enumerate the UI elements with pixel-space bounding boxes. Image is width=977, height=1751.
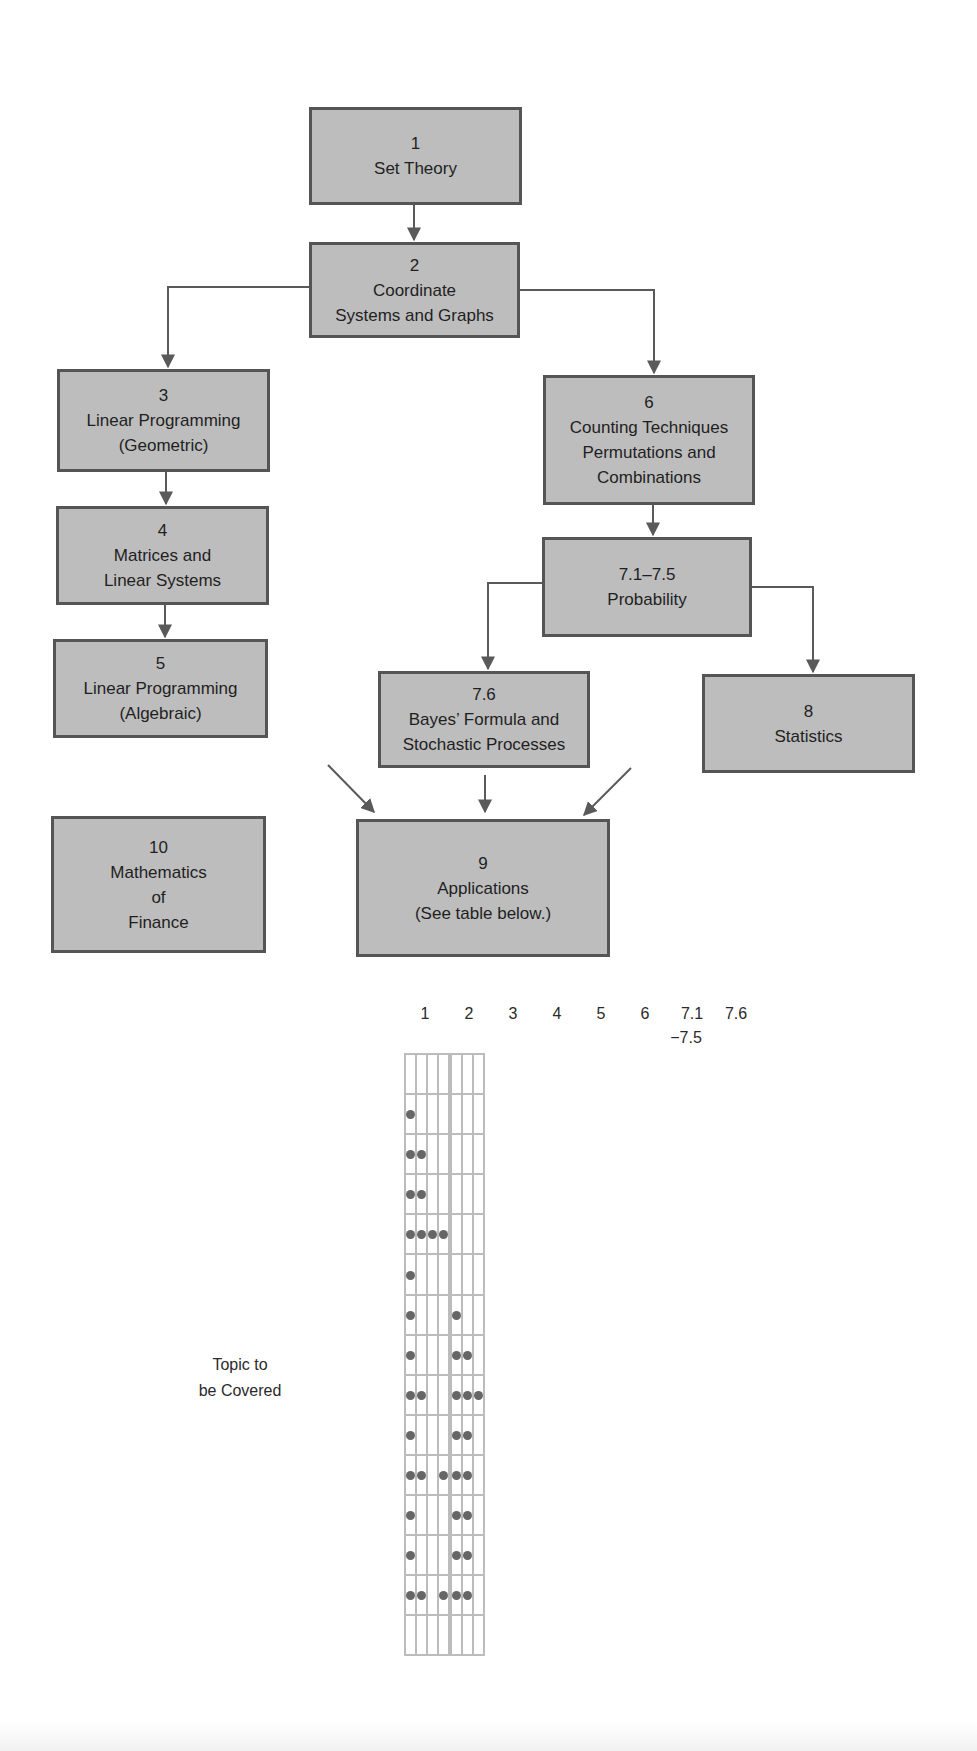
table-cell [416,1094,427,1134]
prerequisite-dot-icon [406,1591,415,1600]
table-cell [427,1054,438,1094]
table-cell [451,1535,462,1575]
table-cell [427,1375,438,1415]
box-title: Bayes’ Formula and [409,707,560,732]
table-cell [438,1295,449,1335]
box-title: Finance [128,910,188,935]
table-cell [462,1495,473,1535]
table-cell [416,1575,427,1615]
table-cell [462,1134,473,1174]
prerequisite-dot-icon [463,1351,472,1360]
box-number: 7.6 [472,682,496,707]
prerequisite-dot-icon [417,1591,426,1600]
table-cell [427,1134,438,1174]
box-title: Coordinate [373,278,456,303]
table-cell [462,1054,473,1094]
table-cell [405,1615,416,1655]
table-cell [416,1495,427,1535]
table-cell [416,1174,427,1214]
table-cell [416,1134,427,1174]
table-cell [473,1375,484,1415]
table-cell [462,1094,473,1134]
table-cell [427,1575,438,1615]
table-cell [462,1254,473,1294]
row-axis-label-line: Topic to [212,1356,267,1373]
box-title: Linear Systems [104,568,221,593]
table-cell [473,1295,484,1335]
arrow-7-1-to-7-6 [488,583,542,669]
table-row [405,1415,484,1455]
table-row [405,1535,484,1575]
table-cell [416,1615,427,1655]
prerequisite-dot-icon [406,1391,415,1400]
table-cell [451,1335,462,1375]
table-cell [405,1535,416,1575]
prerequisite-dot-icon [406,1190,415,1199]
table-cell [473,1254,484,1294]
table-cell [427,1335,438,1375]
box-title: Matrices and [114,543,211,568]
table-cell [427,1535,438,1575]
table-cell [473,1174,484,1214]
table-cell [438,1375,449,1415]
table-cell [427,1615,438,1655]
column-header: 4 [535,1004,579,1024]
box-counting-techniques: 6 Counting Techniques Permutations and C… [543,375,755,505]
table-row [405,1455,484,1495]
box-title: Combinations [597,465,701,490]
table-cell [451,1134,462,1174]
table-cell [451,1575,462,1615]
table-cell [473,1134,484,1174]
table-cell [438,1615,449,1655]
column-header: 1 [403,1004,447,1024]
table-cell [405,1134,416,1174]
table-cell [451,1094,462,1134]
prerequisite-dot-icon [463,1391,472,1400]
table-cell [416,1254,427,1294]
box-number: 9 [478,851,487,876]
table-cell [438,1575,449,1615]
table-row [405,1254,484,1294]
table-cell [451,1455,462,1495]
box-title: Permutations and [582,440,715,465]
table-row [405,1615,484,1655]
prerequisite-dot-icon [463,1591,472,1600]
table-cell [473,1575,484,1615]
box-number: 4 [158,518,167,543]
table-cell [462,1455,473,1495]
box-title: Systems and Graphs [335,303,494,328]
table-cell [462,1214,473,1254]
arrow-2-to-6 [520,290,654,373]
table-cell [462,1575,473,1615]
prerequisite-dot-icon [406,1311,415,1320]
table-cell [462,1375,473,1415]
prerequisite-dot-icon [406,1150,415,1159]
box-matrices: 4 Matrices and Linear Systems [56,506,269,605]
table-cell [405,1254,416,1294]
table-row [405,1375,484,1415]
prerequisite-dot-icon [417,1391,426,1400]
prerequisite-dot-icon [452,1311,461,1320]
box-title: (See table below.) [415,901,551,926]
table-cell [416,1335,427,1375]
prerequisite-dot-icon [406,1271,415,1280]
box-linear-programming-geometric: 3 Linear Programming (Geometric) [57,369,270,472]
prerequisite-dot-icon [452,1431,461,1440]
table-cell [462,1335,473,1375]
table-cell [473,1335,484,1375]
box-mathematics-of-finance: 10 Mathematics of Finance [51,816,266,953]
arrow-right-to-9 [584,768,631,815]
prerequisite-dot-icon [439,1230,448,1239]
table-cell [427,1254,438,1294]
box-number: 1 [411,131,420,156]
table-cell [473,1455,484,1495]
box-title: Applications [437,876,529,901]
column-header-line2: −7.5 [664,1028,708,1048]
table-cell [473,1054,484,1094]
prerequisite-dot-icon [439,1591,448,1600]
table-cell [451,1214,462,1254]
prerequisite-dot-icon [406,1230,415,1239]
table-cell [405,1575,416,1615]
table-cell [416,1455,427,1495]
box-linear-programming-algebraic: 5 Linear Programming (Algebraic) [53,639,268,738]
